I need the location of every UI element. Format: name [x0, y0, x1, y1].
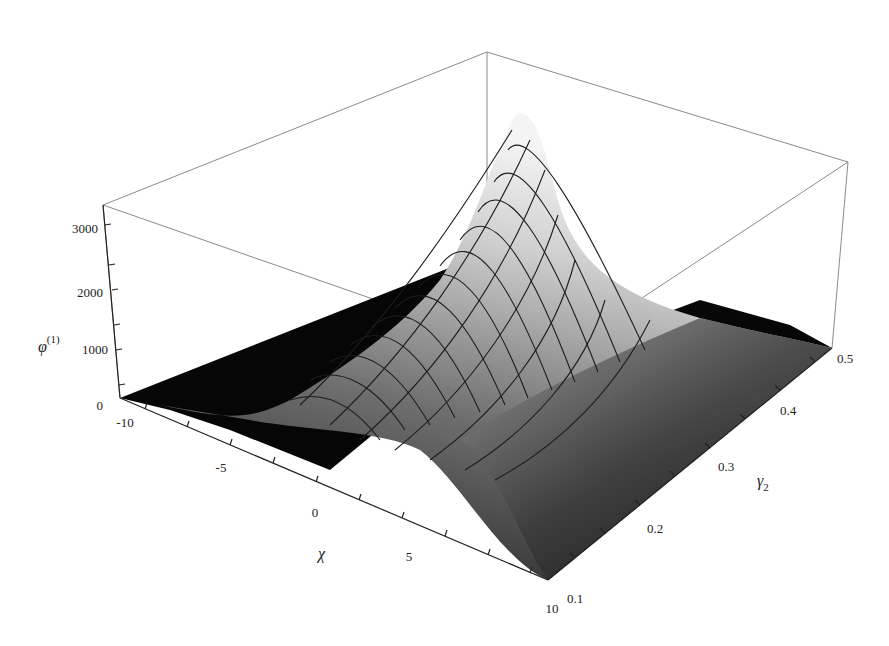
z-tick-0: 0	[97, 398, 104, 413]
y-tick-0-1: 0.1	[567, 591, 583, 606]
surface	[120, 113, 832, 580]
z-tick-2000: 2000	[77, 285, 103, 300]
x-tick-5: 5	[406, 549, 413, 564]
z-axis	[103, 205, 125, 398]
x-tick-minus5: -5	[216, 460, 227, 475]
y-tick-0-2: 0.2	[647, 521, 663, 536]
x-tick-0: 0	[312, 505, 319, 520]
z-tick-3000: 3000	[72, 221, 98, 236]
y-tick-0-5: 0.5	[837, 351, 853, 366]
x-axis-label: χ	[316, 545, 326, 563]
y-tick-0-4: 0.4	[780, 403, 797, 418]
z-axis-label: φ(1)	[38, 333, 60, 356]
y-axis-label: γ2	[757, 472, 769, 493]
x-tick-10: 10	[546, 601, 559, 616]
y-tick-0-3: 0.3	[718, 459, 734, 474]
x-tick-minus10: -10	[116, 415, 133, 430]
z-tick-1000: 1000	[82, 342, 108, 357]
surface-plot: 0 1000 2000 3000 -10 -5 0 5 10 0.1 0.2 0…	[0, 0, 889, 646]
